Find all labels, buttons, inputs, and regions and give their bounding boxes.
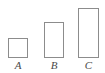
- figure-canvas: A B C: [0, 0, 105, 73]
- bar-label-c: C: [78, 59, 99, 71]
- bar-rect-a: [8, 38, 28, 58]
- bar-label-a: A: [8, 59, 28, 71]
- bar-rect-b: [44, 22, 64, 58]
- bar-label-b: B: [44, 59, 64, 71]
- bar-rect-c: [78, 8, 99, 58]
